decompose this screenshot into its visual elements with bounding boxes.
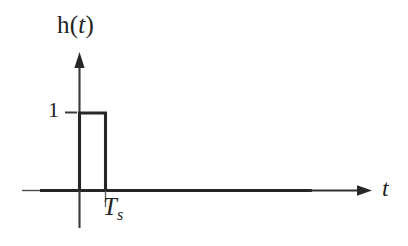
y-axis-arrowhead-icon: [74, 52, 84, 68]
x-tick-label-symbol: T: [103, 193, 117, 220]
y-axis-label-close-paren: ): [85, 11, 94, 38]
x-tick-label-ts: Ts: [103, 194, 123, 223]
amplitude-tick-label: 1: [48, 99, 59, 121]
y-axis-label-function: h: [57, 11, 70, 38]
pulse-waveform: [80, 113, 106, 191]
x-axis-arrowhead-icon: [357, 185, 372, 196]
y-axis-label: h(t): [57, 12, 94, 37]
figure-canvas: h(t) 1 Ts t: [0, 0, 408, 246]
x-axis-label: t: [382, 176, 389, 200]
y-axis-label-open-paren: (: [70, 11, 79, 38]
x-tick-label-subscript: s: [117, 206, 123, 223]
